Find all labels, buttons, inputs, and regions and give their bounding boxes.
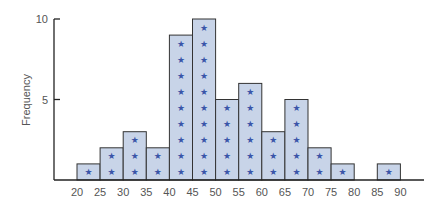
x-tick-label: 40 [163,186,175,198]
star-marker-icon: ★ [292,119,300,129]
star-marker-icon: ★ [223,135,231,145]
star-marker-icon: ★ [177,135,185,145]
star-marker-icon: ★ [200,71,208,81]
star-marker-icon: ★ [177,87,185,97]
star-marker-icon: ★ [108,167,116,177]
star-marker-icon: ★ [223,119,231,129]
star-marker-icon: ★ [246,87,254,97]
star-marker-icon: ★ [108,151,116,161]
y-tick-label: 5 [42,94,48,106]
star-marker-icon: ★ [200,151,208,161]
x-tick-label: 85 [371,186,383,198]
star-marker-icon: ★ [177,167,185,177]
x-tick-label: 65 [279,186,291,198]
star-marker-icon: ★ [292,135,300,145]
star-marker-icon: ★ [246,135,254,145]
star-marker-icon: ★ [131,167,139,177]
star-marker-icon: ★ [292,151,300,161]
star-marker-icon: ★ [177,71,185,81]
star-marker-icon: ★ [177,151,185,161]
x-tick-label: 30 [117,186,129,198]
star-marker-icon: ★ [200,135,208,145]
star-marker-icon: ★ [200,103,208,113]
star-marker-icon: ★ [131,151,139,161]
star-marker-icon: ★ [246,103,254,113]
star-marker-icon: ★ [200,23,208,33]
x-tick-label: 70 [302,186,314,198]
star-marker-icon: ★ [200,87,208,97]
star-marker-icon: ★ [246,119,254,129]
star-marker-icon: ★ [154,151,162,161]
star-marker-icon: ★ [85,167,93,177]
x-tick-label: 45 [186,186,198,198]
star-marker-icon: ★ [177,103,185,113]
y-tick-label: 10 [36,13,48,25]
star-marker-icon: ★ [223,167,231,177]
x-tick-label: 60 [256,186,268,198]
star-marker-icon: ★ [223,151,231,161]
star-marker-icon: ★ [269,135,277,145]
histogram-chart: Frequency ★★★★★★★★★★★★★★★★★★★★★★★★★★★★★★… [0,0,447,207]
x-tick-label: 75 [325,186,337,198]
star-marker-icon: ★ [200,167,208,177]
y-axis-label: Frequency [20,74,32,126]
star-marker-icon: ★ [177,55,185,65]
bars-group: ★★★★★★★★★★★★★★★★★★★★★★★★★★★★★★★★★★★★★★★★… [77,19,400,180]
star-marker-icon: ★ [223,103,231,113]
star-marker-icon: ★ [246,151,254,161]
x-tick-label: 50 [209,186,221,198]
star-marker-icon: ★ [292,103,300,113]
x-tick-label: 25 [94,186,106,198]
y-tick-labels: 510 [36,13,60,106]
star-marker-icon: ★ [385,167,393,177]
x-tick-label: 90 [394,186,406,198]
star-marker-icon: ★ [200,39,208,49]
x-tick-labels: 202530354045505560657075808590 [71,186,407,198]
x-tick-label: 55 [233,186,245,198]
star-marker-icon: ★ [316,167,324,177]
star-marker-icon: ★ [154,167,162,177]
star-marker-icon: ★ [339,167,347,177]
star-marker-icon: ★ [269,167,277,177]
star-marker-icon: ★ [269,151,277,161]
star-marker-icon: ★ [131,135,139,145]
x-tick-label: 80 [348,186,360,198]
star-marker-icon: ★ [246,167,254,177]
histogram-bar [239,83,262,180]
x-tick-label: 35 [140,186,152,198]
star-marker-icon: ★ [200,119,208,129]
star-marker-icon: ★ [316,151,324,161]
star-marker-icon: ★ [177,119,185,129]
star-marker-icon: ★ [292,167,300,177]
star-marker-icon: ★ [177,39,185,49]
x-tick-label: 20 [71,186,83,198]
star-marker-icon: ★ [200,55,208,65]
